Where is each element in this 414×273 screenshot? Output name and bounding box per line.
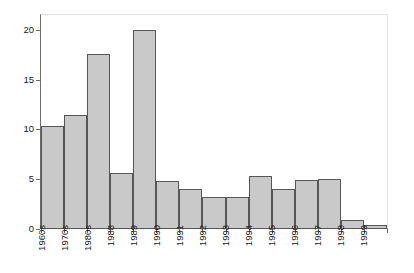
bars-layer — [41, 15, 387, 229]
y-tick-label: 20 — [23, 24, 34, 35]
y-axis-tick: 20 — [0, 30, 40, 31]
bar — [272, 189, 295, 229]
y-axis-tick: 15 — [0, 80, 40, 81]
y-tick-mark — [36, 80, 40, 81]
bar — [87, 54, 110, 229]
bar — [133, 30, 156, 229]
y-tick-label: 0 — [29, 223, 34, 234]
x-tick-label: 1999 — [368, 236, 382, 272]
y-tick-mark — [36, 129, 40, 130]
y-axis-tick: 10 — [0, 129, 40, 130]
bar — [295, 180, 318, 229]
y-tick-label: 5 — [29, 173, 34, 184]
bar — [64, 115, 87, 229]
bar — [318, 179, 341, 229]
y-tick-mark — [36, 179, 40, 180]
y-axis-tick: 0 — [0, 229, 40, 230]
bar — [249, 176, 272, 229]
y-axis-tick: 5 — [0, 179, 40, 180]
x-tick-mark — [387, 229, 388, 233]
bar — [41, 126, 64, 229]
bar — [156, 181, 179, 229]
bar-chart: Percent of Respondents 05101520 1960s197… — [0, 0, 414, 273]
bar — [110, 173, 133, 229]
y-tick-mark — [36, 30, 40, 31]
y-tick-label: 15 — [23, 74, 34, 85]
bar — [179, 189, 202, 229]
y-tick-label: 10 — [23, 123, 34, 134]
